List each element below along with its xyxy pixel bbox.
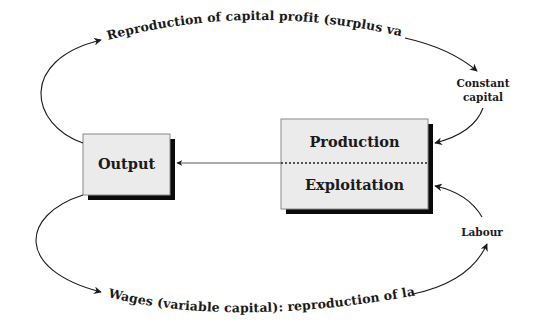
output-node: Output	[83, 134, 175, 200]
production-label: Production	[309, 133, 400, 150]
capital-cycle-diagram: Output Production Exploitation Reproduct…	[0, 0, 533, 336]
top-arc-label: Reproduction of capital profit (surplus …	[0, 0, 404, 43]
labour-arrow	[435, 186, 482, 217]
constant-capital-arrow	[435, 108, 483, 143]
top-right-arc-arrow	[405, 38, 477, 71]
exploitation-label: Exploitation	[305, 176, 404, 193]
top-left-arc-arrow	[41, 40, 101, 143]
top-arc-label-path: Reproduction of capital profit (surplus …	[0, 0, 404, 43]
constant-capital-label-line1: Constant	[456, 77, 509, 89]
bottom-left-arc-arrow	[36, 195, 101, 292]
bottom-right-arc-arrow	[413, 244, 487, 294]
output-label: Output	[98, 155, 156, 172]
constant-capital-label-line2: capital	[463, 91, 503, 103]
labour-label: Labour	[461, 226, 503, 238]
production-node: Production Exploitation	[281, 119, 433, 214]
